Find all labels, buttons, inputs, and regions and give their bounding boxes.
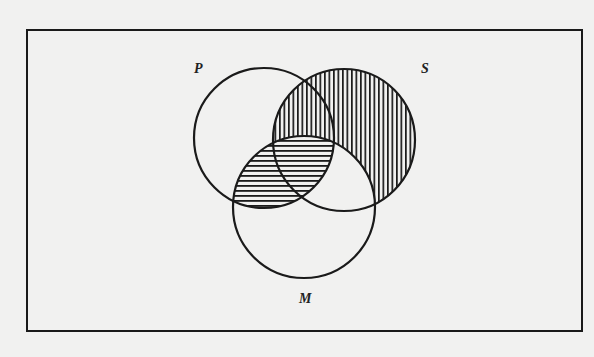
venn-diagram: P S M: [0, 0, 594, 357]
set-s-label: S: [421, 62, 429, 76]
set-p-label: P: [194, 62, 203, 76]
venn-diagram-canvas: [0, 0, 594, 357]
set-m-label: M: [299, 292, 311, 306]
